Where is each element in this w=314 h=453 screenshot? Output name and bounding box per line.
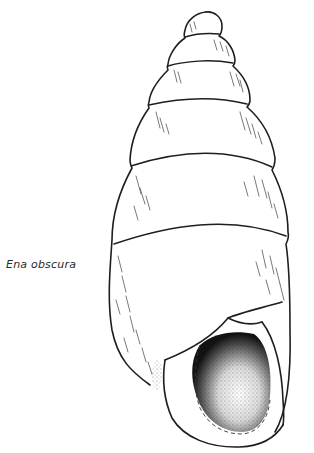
shell-illustration	[0, 0, 314, 453]
aperture	[152, 302, 284, 447]
shading-hatch	[116, 22, 284, 374]
